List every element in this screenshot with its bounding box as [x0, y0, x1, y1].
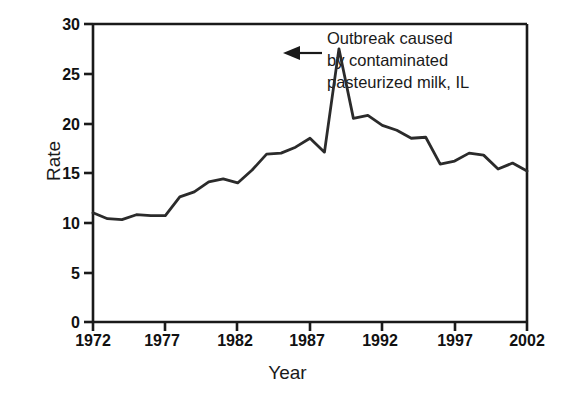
chart-figure: Rate Year 30 25 20 15 10 5 0 1972 1977 1… — [0, 0, 575, 404]
chart-svg — [0, 0, 575, 404]
x-axis-ticks — [93, 322, 527, 331]
annotation-arrow — [283, 46, 322, 60]
y-axis-ticks — [84, 24, 93, 322]
axis-frame — [93, 24, 527, 322]
data-series-line — [93, 49, 527, 220]
